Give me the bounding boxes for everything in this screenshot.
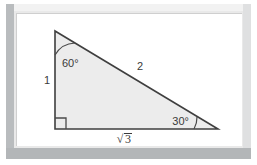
radical-sign: √ — [117, 132, 124, 146]
side-label-horizontal-leg: √ 3 — [117, 132, 132, 146]
diagram-canvas: 60° 30° 1 2 √ 3 — [16, 13, 242, 146]
frame-shadow-left — [6, 4, 14, 159]
picture-frame: 60° 30° 1 2 √ 3 — [0, 0, 257, 165]
triangle-diagram: 60° 30° 1 2 √ 3 — [16, 13, 242, 146]
frame-shadow-bottom — [6, 148, 251, 159]
angle-label-60: 60° — [62, 57, 79, 69]
side-label-vertical-leg: 1 — [44, 74, 50, 86]
side-label-hypotenuse: 2 — [137, 60, 143, 72]
frame-edge-right — [243, 4, 251, 154]
angle-label-30: 30° — [172, 115, 189, 127]
frame-highlight-top — [6, 4, 251, 11]
radicand-value: 3 — [125, 132, 131, 146]
triangle-shape — [55, 31, 218, 129]
